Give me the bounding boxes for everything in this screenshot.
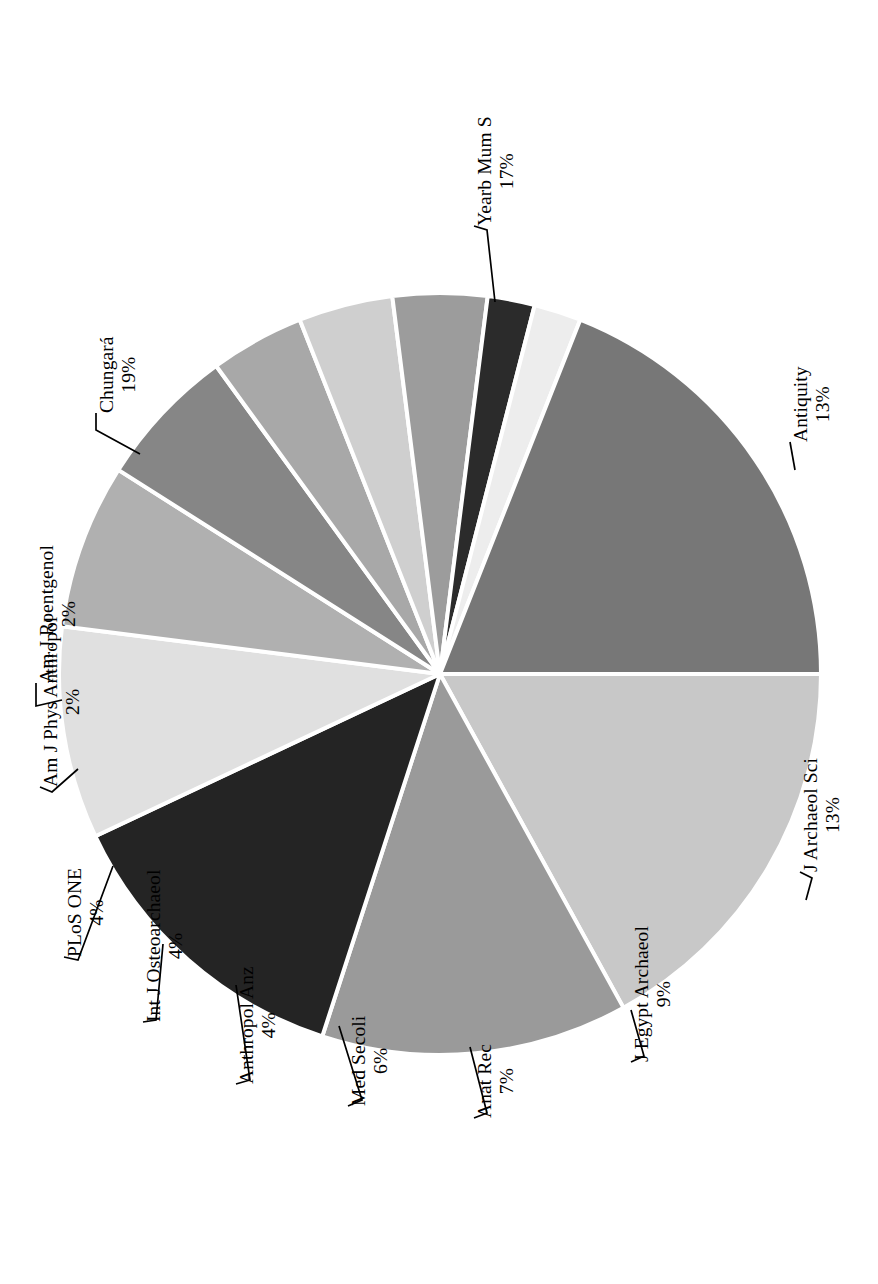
label-value: 19% — [118, 336, 140, 413]
slice-label-anthropol-anz: Anthropol Anz 4% — [236, 966, 280, 1084]
slice-label-int-j-osteoarchaeol: Int J Osteoarchaeol 4% — [143, 870, 187, 1022]
label-name: J Archaeol Sci — [800, 758, 822, 872]
label-value: 4% — [258, 966, 280, 1084]
leader-yearb-mum-s — [474, 226, 495, 302]
label-value: 4% — [165, 870, 187, 1022]
label-name: Yearb Mum S — [474, 116, 496, 226]
label-name: PLoS ONE — [64, 868, 86, 957]
label-name: Anat Rec — [474, 1044, 496, 1118]
label-name: Med Secoli — [348, 1016, 370, 1106]
label-value: 13% — [812, 366, 834, 442]
pie-chart-figure: Yearb Mum S 17% Antiquity 13% J Archaeol… — [0, 0, 878, 1284]
label-name: Anthropol Anz — [236, 966, 258, 1084]
label-value: 7% — [496, 1044, 518, 1118]
slice-label-plos-one: PLoS ONE 4% — [64, 868, 108, 957]
label-value: 4% — [86, 868, 108, 957]
slice-label-j-archaeol-sci: J Archaeol Sci 13% — [800, 758, 844, 872]
slice-label-anat-rec: Anat Rec 7% — [474, 1044, 518, 1118]
slice-label-yearb-mum-s: Yearb Mum S 17% — [474, 116, 518, 226]
label-name: J Egypt Archaeol — [631, 926, 653, 1062]
slice-label-j-egypt-archaeol: J Egypt Archaeol 9% — [631, 926, 675, 1062]
label-name: Chungará — [96, 336, 118, 413]
slice-label-am-j-roentgenol: Am J Roentgenol 2% — [36, 545, 80, 683]
label-value: 2% — [58, 545, 80, 683]
label-value: 13% — [822, 758, 844, 872]
label-value: 6% — [370, 1016, 392, 1106]
slice-label-med-secoli: Med Secoli 6% — [348, 1016, 392, 1106]
label-name: Int J Osteoarchaeol — [143, 870, 165, 1022]
label-name: Antiquity — [790, 366, 812, 442]
label-value: 17% — [496, 116, 518, 226]
slice-label-chungara: Chungará 19% — [96, 336, 140, 413]
label-value: 9% — [653, 926, 675, 1062]
label-name: Am J Roentgenol — [36, 545, 58, 683]
slice-label-antiquity: Antiquity 13% — [790, 366, 834, 442]
